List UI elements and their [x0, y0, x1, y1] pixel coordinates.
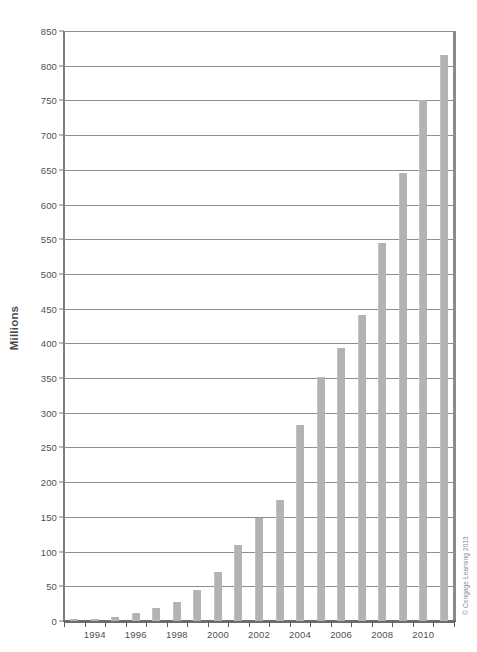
bar — [337, 348, 345, 621]
x-tick-mark — [146, 621, 147, 627]
x-tick-mark — [208, 621, 209, 627]
y-tick-label: 450 — [41, 303, 57, 314]
y-tick-label: 50 — [46, 581, 57, 592]
bar-series — [64, 31, 454, 621]
y-tick-label: 800 — [41, 60, 57, 71]
bar — [296, 425, 304, 621]
x-tick-mark — [351, 621, 352, 627]
y-axis-title-label: Millions — [8, 306, 20, 350]
y-tick-label: 150 — [41, 511, 57, 522]
y-tick-label: 550 — [41, 234, 57, 245]
x-tick-mark — [85, 621, 86, 627]
gridline — [64, 621, 454, 623]
y-axis-title: Millions — [2, 283, 26, 373]
bar — [378, 243, 386, 621]
bar — [276, 500, 284, 621]
x-tick-label: 1994 — [84, 629, 106, 640]
x-tick-mark — [105, 621, 106, 627]
bar-chart-figure: Millions 0501001502002503003504004505005… — [0, 0, 477, 652]
bar — [132, 613, 140, 621]
y-tick-label: 0 — [52, 616, 57, 627]
x-tick-label: 2002 — [248, 629, 270, 640]
bar — [255, 518, 263, 621]
bar — [70, 619, 78, 621]
x-tick-label: 2000 — [207, 629, 229, 640]
copyright-text: © Cengage Learning 2013 — [462, 536, 469, 615]
y-tick-label: 650 — [41, 164, 57, 175]
x-tick-label: 2008 — [371, 629, 393, 640]
x-tick-mark — [372, 621, 373, 627]
x-tick-mark — [310, 621, 311, 627]
x-tick-mark — [290, 621, 291, 627]
bar — [193, 590, 201, 621]
y-tick-label: 300 — [41, 407, 57, 418]
x-tick-mark — [392, 621, 393, 627]
y-tick-label: 600 — [41, 199, 57, 210]
bar — [234, 545, 242, 621]
bar — [214, 572, 222, 621]
y-tick-label: 100 — [41, 546, 57, 557]
x-tick-mark — [126, 621, 127, 627]
y-tick-label: 500 — [41, 268, 57, 279]
y-tick-label: 700 — [41, 130, 57, 141]
x-tick-mark — [249, 621, 250, 627]
bar — [399, 173, 407, 621]
copyright-credit: © Cengage Learning 2013 — [456, 515, 474, 635]
y-tick-label: 750 — [41, 95, 57, 106]
y-tick-label: 250 — [41, 442, 57, 453]
x-tick-label: 2010 — [412, 629, 434, 640]
x-tick-mark — [64, 621, 65, 627]
x-tick-mark — [454, 621, 455, 627]
bar — [317, 377, 325, 621]
y-tick-label: 850 — [41, 26, 57, 37]
y-tick-label: 350 — [41, 373, 57, 384]
x-tick-mark — [187, 621, 188, 627]
bar — [440, 55, 448, 621]
y-tick-label: 400 — [41, 338, 57, 349]
bar — [111, 617, 119, 621]
plot-area: 0501001502002503003504004505005506006507… — [64, 31, 454, 621]
bar — [91, 619, 99, 621]
y-tick-label: 200 — [41, 477, 57, 488]
bar — [358, 315, 366, 621]
x-tick-label: 2006 — [330, 629, 352, 640]
bar — [173, 602, 181, 621]
x-tick-label: 2004 — [289, 629, 311, 640]
x-tick-label: 1998 — [166, 629, 188, 640]
x-tick-label: 1996 — [125, 629, 147, 640]
x-tick-mark — [331, 621, 332, 627]
bar — [419, 100, 427, 621]
x-tick-mark — [228, 621, 229, 627]
x-tick-mark — [167, 621, 168, 627]
x-tick-mark — [269, 621, 270, 627]
x-tick-mark — [413, 621, 414, 627]
x-tick-mark — [433, 621, 434, 627]
bar — [152, 608, 160, 621]
